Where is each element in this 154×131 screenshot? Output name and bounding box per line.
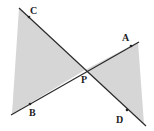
shaded-right-triangle — [85, 42, 144, 124]
label-a: A — [122, 32, 130, 43]
point-b — [29, 103, 32, 106]
label-p: P — [81, 74, 87, 85]
intersecting-lines-diagram: C A P B D — [0, 0, 154, 131]
label-d: D — [116, 114, 123, 125]
point-a — [130, 45, 133, 48]
label-b: B — [29, 107, 36, 118]
point-d — [126, 109, 129, 112]
shaded-left-triangle — [12, 8, 85, 114]
point-c — [28, 16, 31, 19]
label-c: C — [30, 5, 37, 16]
